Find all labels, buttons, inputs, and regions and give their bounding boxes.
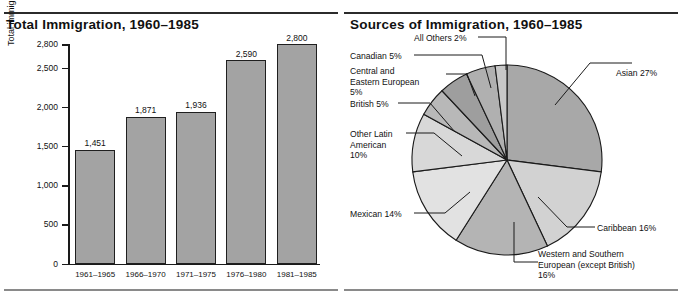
y-axis-tick bbox=[62, 68, 68, 70]
pie-label-other-latin-line3: 10% bbox=[350, 150, 420, 161]
y-axis-tick bbox=[62, 107, 68, 109]
bar bbox=[277, 44, 317, 264]
pie-label-mexican: Mexican 14% bbox=[350, 209, 402, 220]
bar bbox=[126, 117, 166, 264]
pie-label-western-line2: European (except British) bbox=[538, 260, 684, 271]
y-axis-line bbox=[68, 44, 70, 265]
bar-value-label: 1,451 bbox=[85, 138, 106, 148]
y-axis-tick-label: 2,000 bbox=[2, 102, 58, 112]
bottom-rule bbox=[344, 289, 678, 291]
x-axis-tick-label: 1966–1970 bbox=[126, 270, 166, 279]
pie-label-all-others: All Others 2% bbox=[414, 33, 467, 44]
pie-label-central-eastern-european: Central and Eastern European 5% bbox=[350, 66, 446, 98]
pie-label-central-eastern-line1: Central and bbox=[350, 66, 446, 77]
pie-label-asian: Asian 27% bbox=[616, 68, 657, 79]
bar bbox=[75, 150, 115, 264]
pie-slice-asian bbox=[507, 65, 602, 172]
bar-value-label: 2,800 bbox=[286, 33, 307, 43]
top-rule bbox=[4, 12, 338, 14]
bar-value-label: 1,936 bbox=[185, 100, 206, 110]
y-axis-tick bbox=[62, 44, 68, 46]
pie-label-other-latin-american: Other Latin American 10% bbox=[350, 129, 420, 161]
bottom-rule bbox=[4, 289, 338, 291]
pie-chart-panel: Sources of Immigration, 1960–1985 All Ot… bbox=[342, 0, 684, 301]
pie-label-caribbean: Caribbean 16% bbox=[597, 223, 656, 234]
pie-label-central-eastern-line3: 5% bbox=[350, 87, 446, 98]
pie-label-central-eastern-line2: Eastern European bbox=[350, 77, 446, 88]
y-axis-tick bbox=[62, 264, 68, 266]
x-axis-tick-label: 1971–1975 bbox=[176, 270, 216, 279]
bar bbox=[226, 60, 266, 263]
pie-label-western-southern-european: Western and Southern European (except Br… bbox=[538, 249, 684, 281]
y-axis-tick bbox=[62, 146, 68, 148]
bar bbox=[176, 112, 216, 264]
y-axis-tick-label: 1,500 bbox=[2, 141, 58, 151]
pie-label-other-latin-line2: American bbox=[350, 140, 420, 151]
y-axis-tick bbox=[62, 224, 68, 226]
bar-chart-plot-area: 05001,0001,5002,0002,5002,800 1,4511,871… bbox=[68, 44, 320, 265]
pie-label-western-line3: 16% bbox=[538, 270, 684, 281]
x-axis-line bbox=[68, 264, 320, 266]
bar-value-label: 2,590 bbox=[236, 49, 257, 59]
pie-label-canadian: Canadian 5% bbox=[350, 51, 402, 62]
pie-label-other-latin-line1: Other Latin bbox=[350, 129, 420, 140]
y-axis-tick-label: 2,500 bbox=[2, 63, 58, 73]
y-axis-tick-label: 2,800 bbox=[2, 39, 58, 49]
y-axis-tick-label: 500 bbox=[2, 219, 58, 229]
y-axis-tick-label: 0 bbox=[2, 259, 58, 269]
y-axis-tick bbox=[62, 185, 68, 187]
bar-chart-title: Total Immigration, 1960–1985 bbox=[6, 17, 199, 32]
pie-label-western-line1: Western and Southern bbox=[538, 249, 684, 260]
bar-chart-panel: Total Immigration, 1960–1985 Total immig… bbox=[0, 0, 342, 301]
x-axis-tick-label: 1981–1985 bbox=[277, 270, 317, 279]
bar-value-label: 1,871 bbox=[135, 105, 156, 115]
y-axis-tick-label: 1,000 bbox=[2, 180, 58, 190]
pie-label-british: British 5% bbox=[350, 99, 389, 110]
x-axis-tick-label: 1976–1980 bbox=[226, 270, 266, 279]
x-axis-tick-label: 1961–1965 bbox=[75, 270, 115, 279]
